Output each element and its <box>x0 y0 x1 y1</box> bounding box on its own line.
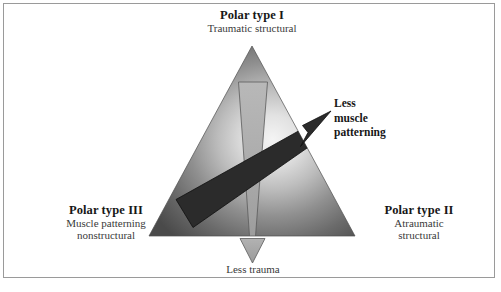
less-trauma-label: Less trauma <box>197 263 309 275</box>
less-muscle-patterning-line1: Less <box>334 96 424 111</box>
polar-type-3-subtitle-line1: Muscle patterning <box>34 217 178 229</box>
figure-root: Polar type I Traumatic structural Polar … <box>0 0 501 292</box>
polar-type-3-title: Polar type III <box>34 203 178 217</box>
polar-type-1-subtitle: Traumatic structural <box>152 22 352 34</box>
label-polar-type-3: Polar type III Muscle patterning nonstru… <box>34 203 178 242</box>
label-less-trauma: Less trauma <box>197 263 309 275</box>
less-muscle-patterning-line2: muscle <box>334 111 424 126</box>
polar-type-1-title: Polar type I <box>152 8 352 22</box>
label-less-muscle-patterning: Less muscle patterning <box>334 96 424 140</box>
polar-type-2-subtitle-line2: structural <box>352 229 486 241</box>
label-polar-type-1: Polar type I Traumatic structural <box>152 8 352 34</box>
polar-type-2-title: Polar type II <box>352 203 486 217</box>
less-muscle-patterning-line3: patterning <box>334 125 424 140</box>
polar-type-2-subtitle-line1: Atraumatic <box>352 217 486 229</box>
label-polar-type-2: Polar type II Atraumatic structural <box>352 203 486 242</box>
polar-type-3-subtitle-line2: nonstructural <box>34 229 178 241</box>
